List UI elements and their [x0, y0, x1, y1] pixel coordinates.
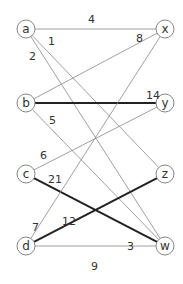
weight-label: 8	[136, 32, 143, 45]
weight-label: 12	[62, 215, 76, 228]
weight-label: 7	[32, 221, 39, 234]
weight-label: 2	[29, 50, 36, 63]
bipartite-graph: abcdxyzw 412814562112739	[0, 0, 183, 284]
node-label: y	[161, 96, 168, 110]
node-label: x	[161, 22, 168, 36]
weight-label: 14	[146, 89, 160, 102]
node-d: d	[17, 237, 35, 255]
node-label: z	[162, 167, 168, 181]
node-a: a	[17, 20, 35, 38]
edge-a-z	[32, 35, 159, 167]
node-label: d	[22, 239, 30, 253]
node-x: x	[156, 20, 174, 38]
weight-label: 9	[91, 260, 98, 273]
weight-label: 21	[48, 173, 62, 186]
node-c: c	[17, 165, 35, 183]
node-b: b	[17, 94, 35, 112]
weight-label: 3	[127, 240, 134, 253]
node-w: w	[156, 237, 174, 255]
weight-label: 6	[40, 149, 47, 162]
node-label: a	[22, 22, 29, 36]
weight-label: 5	[49, 114, 56, 127]
node-label: b	[22, 96, 30, 110]
node-z: z	[156, 165, 174, 183]
edges	[31, 29, 160, 246]
weight-label: 4	[88, 13, 95, 26]
node-label: c	[23, 167, 30, 181]
node-label: w	[160, 239, 170, 253]
weight-label: 1	[48, 35, 55, 48]
